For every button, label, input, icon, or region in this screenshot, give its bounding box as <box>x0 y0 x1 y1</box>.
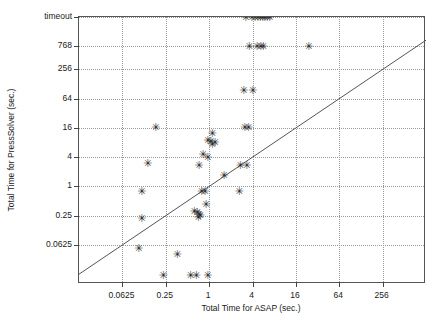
y-axis-tick <box>74 99 79 100</box>
x-axis-tick <box>122 282 123 287</box>
data-point: ✳ <box>264 17 275 23</box>
y-axis-tick <box>74 216 79 217</box>
x-axis-tick-label: 0.25 <box>157 290 174 300</box>
x-axis-tick-label: 64 <box>334 290 343 300</box>
y-axis-tick-label: 0.0625 <box>46 239 72 249</box>
data-point: ✳ <box>133 243 144 254</box>
y-axis-tick-label: 16 <box>63 122 72 132</box>
data-point: ✳ <box>158 270 169 281</box>
scatter-chart: Total Time for PressSolver (sec.) ✳✳✳✳✳✳… <box>0 0 444 325</box>
y-axis-tick <box>74 245 79 246</box>
y-axis-tick-label: 768 <box>58 40 72 50</box>
y-axis-tick <box>74 157 79 158</box>
y-axis-tick-label: 4 <box>67 151 72 161</box>
data-point: ✳ <box>136 186 147 197</box>
x-axis-tick-label: 4 <box>249 290 254 300</box>
data-point: ✳ <box>193 160 204 171</box>
y-axis-tick <box>74 17 79 18</box>
data-point: ✳ <box>142 158 153 169</box>
x-axis-tick <box>253 282 254 287</box>
data-point: ✳ <box>258 41 269 52</box>
data-point: ✳ <box>172 249 183 260</box>
data-point: ✳ <box>243 122 254 133</box>
data-point: ✳ <box>218 170 229 181</box>
data-point: ✳ <box>136 213 147 224</box>
y-axis-tick <box>74 46 79 47</box>
data-point: ✳ <box>192 212 203 223</box>
y-axis-tick-label: 1 <box>67 180 72 190</box>
y-axis-title: Total Time for PressSolver (sec.) <box>6 89 16 212</box>
data-point: ✳ <box>303 41 314 52</box>
y-axis-tick-label: 64 <box>63 93 72 103</box>
x-axis-tick-label: 0.0625 <box>108 290 134 300</box>
x-axis-tick <box>383 282 384 287</box>
x-axis-tick <box>339 282 340 287</box>
y-axis-tick <box>74 128 79 129</box>
data-point: ✳ <box>199 186 210 197</box>
x-axis-tick <box>209 282 210 287</box>
x-axis-tick <box>166 282 167 287</box>
data-point: ✳ <box>241 160 252 171</box>
data-point: ✳ <box>247 85 258 96</box>
x-axis-tick-label: 1 <box>206 290 211 300</box>
data-points: ✳✳✳✳✳✳✳✳✳✳✳✳✳✳✳✳✳✳✳✳✳✳✳✳✳✳✳✳✳✳✳✳✳✳✳✳✳✳✳✳… <box>79 17 424 282</box>
data-point: ✳ <box>150 122 161 133</box>
x-axis-tick <box>296 282 297 287</box>
y-axis-tick-label: timeout <box>44 11 72 21</box>
y-axis-tick-label: 0.25 <box>55 210 72 220</box>
x-axis-title: Total Time for ASAP (sec.) <box>201 303 300 313</box>
data-point: ✳ <box>234 186 245 197</box>
data-point: ✳ <box>191 270 202 281</box>
x-axis-tick-label: 16 <box>290 290 299 300</box>
y-axis-tick-label: 256 <box>58 63 72 73</box>
x-axis-tick-label: 256 <box>375 290 389 300</box>
data-point: ✳ <box>202 270 213 281</box>
y-axis-tick <box>74 186 79 187</box>
y-axis-tick <box>74 69 79 70</box>
plot-area: ✳✳✳✳✳✳✳✳✳✳✳✳✳✳✳✳✳✳✳✳✳✳✳✳✳✳✳✳✳✳✳✳✳✳✳✳✳✳✳✳… <box>78 16 425 283</box>
